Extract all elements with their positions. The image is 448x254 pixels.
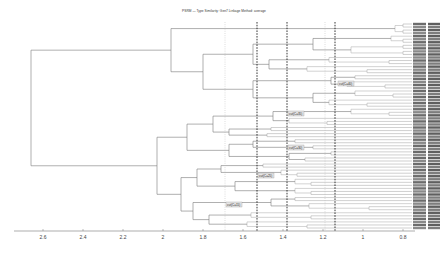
cluster-label: cut(C=30) bbox=[289, 146, 302, 150]
leaf-label-col1 bbox=[413, 90, 426, 92]
leaf-label-col2 bbox=[428, 135, 440, 137]
leaf-label-col2 bbox=[428, 187, 440, 189]
leaf-label-col1 bbox=[413, 26, 426, 28]
leaf-label-col1 bbox=[413, 160, 426, 162]
leaf-label-col1 bbox=[413, 102, 426, 104]
leaf-label-col1 bbox=[413, 157, 426, 159]
leaf-label-col2 bbox=[428, 123, 440, 125]
leaf-label-col1 bbox=[413, 169, 426, 171]
leaf-label-col1 bbox=[413, 96, 426, 98]
leaf-label-col1 bbox=[413, 50, 426, 52]
leaf-label-col1 bbox=[413, 172, 426, 174]
leaf-label-col2 bbox=[428, 87, 440, 89]
leaf-label-col2 bbox=[428, 212, 440, 214]
leaf-label-col2 bbox=[428, 193, 440, 195]
leaf-label-col1 bbox=[413, 41, 426, 43]
leaf-label-col2 bbox=[428, 181, 440, 183]
leaf-label-col1 bbox=[413, 53, 426, 55]
leaf-label-col2 bbox=[428, 169, 440, 171]
leaf-label-col1 bbox=[413, 59, 426, 61]
dendrogram-figure: PSRM — Type Similarity: Gen7 Linkage Met… bbox=[0, 0, 448, 254]
leaf-label-col1 bbox=[413, 65, 426, 67]
leaf-label-col2 bbox=[428, 175, 440, 177]
leaf-label-col1 bbox=[413, 145, 426, 147]
leaf-label-col1 bbox=[413, 202, 426, 204]
leaf-label-col2 bbox=[428, 62, 440, 64]
leaf-label-col2 bbox=[428, 102, 440, 104]
leaf-label-col1 bbox=[413, 93, 426, 95]
leaf-label-col1 bbox=[413, 126, 426, 128]
cluster-label: cut(C=40) bbox=[339, 82, 352, 86]
leaf-label-col1 bbox=[413, 175, 426, 177]
leaf-label-col2 bbox=[428, 132, 440, 134]
leaf-label-col1 bbox=[413, 196, 426, 198]
leaf-label-col1 bbox=[413, 84, 426, 86]
leaf-label-col2 bbox=[428, 224, 440, 226]
leaf-label-col1 bbox=[413, 221, 426, 223]
leaf-label-col1 bbox=[413, 139, 426, 141]
leaf-label-col1 bbox=[413, 181, 426, 183]
leaf-label-col2 bbox=[428, 205, 440, 207]
leaf-label-col1 bbox=[413, 23, 426, 25]
x-tick-label: 1.2 bbox=[320, 234, 327, 240]
leaf-label-col1 bbox=[413, 187, 426, 189]
x-tick-label: 2 bbox=[162, 234, 165, 240]
leaf-label-col1 bbox=[413, 129, 426, 131]
leaf-label-col2 bbox=[428, 78, 440, 80]
leaf-label-col2 bbox=[428, 38, 440, 40]
leaf-label-col2 bbox=[428, 56, 440, 58]
leaf-label-col2 bbox=[428, 178, 440, 180]
leaf-label-col1 bbox=[413, 47, 426, 49]
leaf-label-col2 bbox=[428, 41, 440, 43]
leaf-label-col1 bbox=[413, 35, 426, 37]
leaf-label-col1 bbox=[413, 142, 426, 144]
leaf-label-col1 bbox=[413, 75, 426, 77]
leaf-label-col1 bbox=[413, 114, 426, 116]
x-tick-label: 0.8 bbox=[400, 234, 407, 240]
leaf-label-col1 bbox=[413, 44, 426, 46]
leaf-label-col1 bbox=[413, 38, 426, 40]
leaf-label-col1 bbox=[413, 72, 426, 74]
leaf-label-col1 bbox=[413, 32, 426, 34]
leaf-label-col1 bbox=[413, 227, 426, 229]
leaf-label-col1 bbox=[413, 68, 426, 70]
leaf-label-col2 bbox=[428, 218, 440, 220]
leaf-label-col1 bbox=[413, 56, 426, 58]
leaf-label-col1 bbox=[413, 99, 426, 101]
x-tick-label: 1.8 bbox=[200, 234, 207, 240]
leaf-label-col1 bbox=[413, 29, 426, 31]
x-tick-label: 1.4 bbox=[280, 234, 287, 240]
leaf-label-col2 bbox=[428, 221, 440, 223]
x-tick-label: 2.2 bbox=[120, 234, 127, 240]
leaf-label-col2 bbox=[428, 160, 440, 162]
leaf-label-col1 bbox=[413, 81, 426, 83]
leaf-label-col1 bbox=[413, 178, 426, 180]
leaf-label-col2 bbox=[428, 47, 440, 49]
leaf-label-col1 bbox=[413, 193, 426, 195]
leaf-label-col2 bbox=[428, 59, 440, 61]
leaf-label-col2 bbox=[428, 199, 440, 201]
leaf-label-col1 bbox=[413, 224, 426, 226]
leaf-label-col1 bbox=[413, 111, 426, 113]
leaf-label-col2 bbox=[428, 117, 440, 119]
cluster-label: cut(C=25) bbox=[259, 174, 272, 178]
leaf-label-col1 bbox=[413, 209, 426, 211]
leaf-label-col1 bbox=[413, 78, 426, 80]
x-tick-label: 1 bbox=[362, 234, 365, 240]
leaf-label-col1 bbox=[413, 87, 426, 89]
leaf-label-col2 bbox=[428, 145, 440, 147]
leaf-label-col1 bbox=[413, 117, 426, 119]
cluster-label: cut(C=35) bbox=[289, 112, 302, 116]
leaf-label-col2 bbox=[428, 23, 440, 25]
leaf-label-col2 bbox=[428, 129, 440, 131]
leaf-label-col2 bbox=[428, 72, 440, 74]
leaf-label-col2 bbox=[428, 114, 440, 116]
leaf-label-col1 bbox=[413, 215, 426, 217]
leaf-label-col2 bbox=[428, 96, 440, 98]
leaf-label-col1 bbox=[413, 123, 426, 125]
leaf-label-col1 bbox=[413, 205, 426, 207]
leaf-label-col2 bbox=[428, 50, 440, 52]
x-tick-label: 1.6 bbox=[240, 234, 247, 240]
leaf-label-col2 bbox=[428, 184, 440, 186]
leaf-label-col2 bbox=[428, 26, 440, 28]
